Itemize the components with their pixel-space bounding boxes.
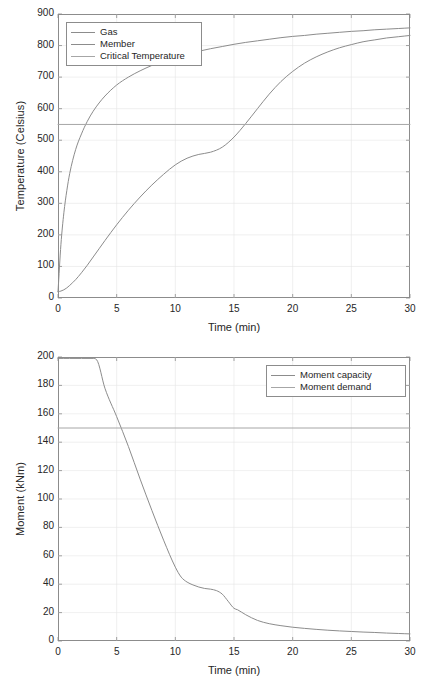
legend-line-swatch-icon [271,387,295,388]
moment-legend[interactable]: Moment capacityMoment demand [266,365,406,397]
legend-item[interactable]: Critical Temperature [71,50,196,62]
y-tick-label: 140 [12,435,54,446]
x-tick-label: 0 [38,303,78,314]
x-tick-label: 15 [214,303,254,314]
x-tick-label: 5 [97,646,137,657]
x-tick-label: 0 [38,646,78,657]
y-tick-label: 0 [12,291,54,302]
temperature-x-axis-label: Time (min) [58,321,410,333]
x-tick-label: 10 [155,646,195,657]
x-tick-label: 25 [331,646,371,657]
x-tick-label: 20 [273,303,313,314]
y-tick-label: 180 [12,378,54,389]
x-tick-label: 25 [331,303,371,314]
y-tick-label: 100 [12,492,54,503]
y-tick-label: 160 [12,407,54,418]
legend-item[interactable]: Moment demand [271,381,400,393]
legend-label: Critical Temperature [100,50,185,62]
temperature-legend[interactable]: GasMemberCritical Temperature [66,22,202,66]
y-tick-label: 120 [12,464,54,475]
y-tick-label: 700 [12,70,54,81]
figure-container: Temperature (Celsius) Time (min) 0100200… [0,0,428,691]
y-tick-label: 40 [12,577,54,588]
y-tick-label: 100 [12,259,54,270]
legend-label: Moment capacity [300,369,372,381]
y-tick-label: 200 [12,228,54,239]
x-tick-label: 30 [390,303,428,314]
legend-label: Moment demand [300,381,371,393]
y-tick-label: 20 [12,606,54,617]
legend-line-swatch-icon [271,375,295,376]
x-tick-label: 10 [155,303,195,314]
x-tick-label: 30 [390,646,428,657]
legend-line-swatch-icon [71,32,95,33]
x-tick-label: 20 [273,646,313,657]
x-tick-label: 5 [97,303,137,314]
legend-item[interactable]: Moment capacity [271,369,400,381]
moment-chart: Moment (kNm) Time (min) 0204060801001201… [0,345,428,691]
legend-label: Gas [100,26,117,38]
y-tick-label: 600 [12,102,54,113]
y-tick-label: 400 [12,165,54,176]
y-tick-label: 80 [12,520,54,531]
temperature-plot-svg [0,0,428,340]
legend-item[interactable]: Gas [71,26,196,38]
y-tick-label: 200 [12,350,54,361]
legend-item[interactable]: Member [71,38,196,50]
legend-label: Member [100,38,135,50]
legend-line-swatch-icon [71,56,95,57]
y-tick-label: 800 [12,39,54,50]
y-tick-label: 300 [12,196,54,207]
temperature-chart: Temperature (Celsius) Time (min) 0100200… [0,0,428,340]
x-tick-label: 15 [214,646,254,657]
y-tick-label: 500 [12,133,54,144]
legend-line-swatch-icon [71,44,95,45]
moment-x-axis-label: Time (min) [58,664,410,676]
y-tick-label: 0 [12,634,54,645]
y-tick-label: 900 [12,7,54,18]
y-tick-label: 60 [12,549,54,560]
temperature-y-axis-label: Temperature (Celsius) [14,101,26,211]
